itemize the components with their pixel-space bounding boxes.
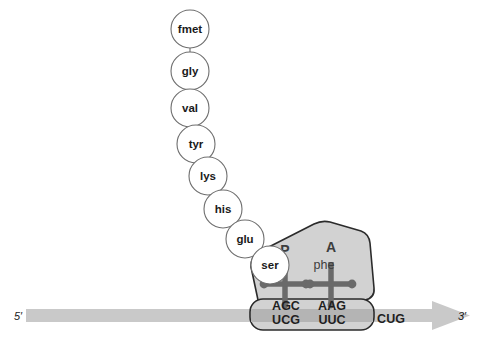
codon-ucg: UCG [272,313,300,327]
amino-acid-ser: ser [251,246,289,284]
amino-acid-lys: lys [189,157,227,195]
amino-acid-gly: gly [171,52,209,90]
translation-diagram: 5′ 3′ P A phe [0,0,489,350]
amino-acid-label: fmet [178,23,202,35]
amino-acid-label: gly [182,65,199,77]
amino-acid-label: ser [261,259,279,271]
trna-a-left-knob [306,280,315,289]
phe-amino-acid-label: phe [314,258,335,272]
amino-acid-label: glu [236,233,253,245]
amino-acid-label: val [182,102,198,114]
amino-acid-fmet: fmet [171,10,209,48]
amino-acid-label: his [215,203,232,215]
trna-a-right-knob [348,280,357,289]
diagram-canvas: 5′ 3′ P A phe [0,0,489,350]
three-prime-label: 3′ [458,310,467,322]
anticodon-a-site: AAG [318,299,346,313]
five-prime-label: 5′ [14,310,23,322]
amino-acid-label: tyr [189,138,204,150]
amino-acid-val: val [171,89,209,127]
mrna-in-ribosome [251,309,373,322]
amino-acid-label: lys [200,170,216,182]
anticodon-p-site: AGC [272,299,300,313]
codon-uuc: UUC [318,313,345,327]
codon-cug: CUG [377,312,405,326]
a-site-label: A [326,239,336,255]
